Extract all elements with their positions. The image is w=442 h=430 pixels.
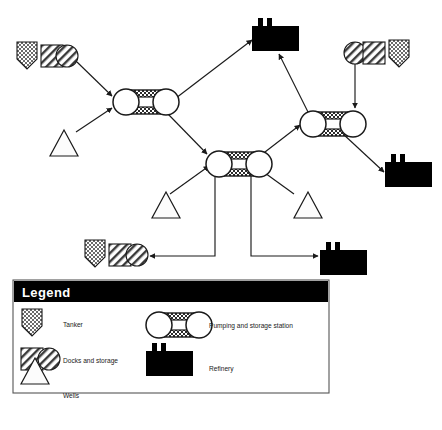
node-dock-group-topleft[interactable] [17, 42, 78, 69]
docks-circle-icon [56, 45, 78, 67]
edge-layer [76, 40, 384, 256]
pumping-station-icon [113, 89, 179, 115]
node-refinery-bottom[interactable] [320, 242, 367, 275]
docks-square-icon [363, 42, 385, 64]
docks-circle-icon [38, 348, 60, 370]
edge-dock-topleft-to-pump-left [77, 62, 112, 96]
edge-pump-left-to-pump-center [168, 114, 207, 154]
tanker-icon [85, 240, 105, 267]
wells-icon [152, 192, 180, 218]
edge-pump-right-to-refinery-right [342, 133, 384, 172]
node-well-left[interactable] [50, 130, 78, 156]
node-pump-center[interactable] [206, 151, 272, 177]
pumping-station-icon [206, 151, 272, 177]
edge-well-left-to-pump-left [76, 108, 112, 132]
node-dock-group-bottom[interactable] [85, 240, 148, 267]
legend-title: Legend [22, 285, 71, 300]
node-pump-right[interactable] [300, 111, 366, 137]
node-well-center-left[interactable] [152, 192, 180, 218]
refinery-icon [252, 18, 299, 51]
tanker-icon [389, 40, 409, 67]
legend-label-wells: Wells [63, 392, 80, 399]
pumping-station-icon [146, 312, 212, 338]
node-refinery-top[interactable] [252, 18, 299, 51]
docks-circle-icon [126, 244, 148, 266]
node-pump-left[interactable] [113, 89, 179, 115]
wells-icon [294, 192, 322, 218]
edge-pump-right-to-refinery-top [279, 54, 308, 112]
node-dock-group-topright[interactable] [344, 40, 409, 67]
legend-panel: Legend Tanker Pumping and storage statio… [13, 280, 329, 399]
wells-icon [50, 130, 78, 156]
legend-label-pumping-station: Pumping and storage station [209, 322, 293, 330]
node-well-center-right[interactable] [294, 192, 322, 218]
edge-pump-left-to-refinery-top [176, 40, 252, 98]
legend-label-refinery: Refinery [209, 365, 234, 373]
legend-label-docks-and-storage: Docks and storage [63, 357, 118, 365]
pumping-station-icon [300, 111, 366, 137]
refinery-icon [385, 154, 432, 187]
diagram-page: Legend Tanker Pumping and storage statio… [0, 0, 442, 430]
network-diagram-canvas: Legend Tanker Pumping and storage statio… [0, 0, 442, 430]
node-refinery-right[interactable] [385, 154, 432, 187]
edge-well-center-left-to-pump-center [170, 166, 209, 194]
legend-label-tanker: Tanker [63, 321, 84, 328]
refinery-icon [320, 242, 367, 275]
tanker-icon [17, 42, 37, 69]
